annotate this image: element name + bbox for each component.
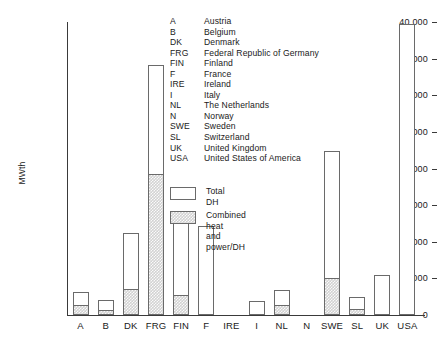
legend-label: Total DH [206, 186, 225, 207]
bar-combined-heat-power-dh [173, 295, 189, 315]
abbreviation-key-row: BBelgium [170, 27, 319, 38]
abbreviation-key-row: DKDenmark [170, 37, 319, 48]
abbreviation-code: DK [170, 37, 204, 48]
abbreviation-code: N [170, 111, 204, 122]
abbreviation-country-name: Belgium [204, 27, 236, 38]
bar-combined-heat-power-dh [349, 309, 365, 315]
abbreviation-country-name: Austria [204, 16, 231, 27]
abbreviation-country-name: Switzerland [204, 132, 250, 143]
bar-group [374, 22, 390, 315]
abbreviation-country-name: United States of America [204, 153, 301, 164]
bar-total-dh [399, 24, 415, 315]
abbreviation-code: UK [170, 143, 204, 154]
legend-label: Combined heat and power/DH [206, 210, 246, 252]
y-axis-tick-mark [432, 95, 437, 96]
abbreviation-country-name: Federal Republic of Germany [204, 48, 319, 59]
abbreviation-code: B [170, 27, 204, 38]
abbreviation-country-name: Sweden [204, 121, 236, 132]
bar-group [324, 22, 340, 315]
y-axis-tick-mark [432, 242, 437, 243]
bar-total-dh [374, 275, 390, 315]
y-axis-tick-mark [432, 278, 437, 279]
abbreviation-country-name: Norway [204, 111, 234, 122]
abbreviation-code: FRG [170, 48, 204, 59]
abbreviation-country-name: Ireland [204, 79, 231, 90]
bar-group [349, 22, 365, 315]
abbreviation-country-name: United Kingdom [204, 143, 267, 154]
y-axis-tick-mark [432, 169, 437, 170]
abbreviation-key-row: SLSwitzerland [170, 132, 319, 143]
abbreviation-code: F [170, 69, 204, 80]
bar-combined-heat-power-dh [148, 174, 164, 315]
y-axis-tick-mark [432, 132, 437, 133]
y-axis-title: MWth [17, 143, 27, 203]
abbreviation-code: A [170, 16, 204, 27]
abbreviation-key-row: AAustria [170, 16, 319, 27]
bar-combined-heat-power-dh [73, 305, 89, 315]
abbreviation-key-row: SWESweden [170, 121, 319, 132]
bar-group [73, 22, 89, 315]
bar-group [399, 22, 415, 315]
x-axis-line [67, 315, 425, 316]
abbreviation-country-name: Denmark [204, 37, 240, 48]
bar-group [148, 22, 164, 315]
abbreviation-key-row: FINFinland [170, 58, 319, 69]
abbreviation-code: SWE [170, 121, 204, 132]
abbreviation-key-row: FFrance [170, 69, 319, 80]
bar-group [98, 22, 114, 315]
abbreviation-key-row: FRGFederal Republic of Germany [170, 48, 319, 59]
legend-swatch-chp [170, 211, 196, 224]
abbreviation-code: FIN [170, 58, 204, 69]
abbreviation-key-row: UKUnited Kingdom [170, 143, 319, 154]
bar-combined-heat-power-dh [274, 305, 290, 315]
abbreviation-key-row: NNorway [170, 111, 319, 122]
abbreviation-code: SL [170, 132, 204, 143]
abbreviation-key-row: IItaly [170, 90, 319, 101]
legend-swatch-total [170, 187, 196, 200]
abbreviation-key-row: USAUnited States of America [170, 153, 319, 164]
abbreviation-code: IRE [170, 79, 204, 90]
bar-total-dh [249, 301, 265, 315]
bar-group [123, 22, 139, 315]
abbreviation-code: USA [170, 153, 204, 164]
abbreviation-key-row: NLThe Netherlands [170, 100, 319, 111]
bar-combined-heat-power-dh [123, 289, 139, 315]
abbreviation-country-name: The Netherlands [204, 100, 269, 111]
y-axis-tick-mark [432, 22, 437, 23]
x-axis-tick-label: USA [382, 320, 432, 331]
bar-combined-heat-power-dh [324, 278, 340, 315]
abbreviation-code: NL [170, 100, 204, 111]
y-axis-tick-mark [432, 205, 437, 206]
bar-combined-heat-power-dh [98, 310, 114, 315]
abbreviation-code: I [170, 90, 204, 101]
abbreviation-country-name: France [204, 69, 231, 80]
y-axis-tick-mark [432, 59, 437, 60]
abbreviation-country-name: Italy [204, 90, 220, 101]
abbreviation-country-name: Finland [204, 58, 233, 69]
abbreviation-key-row: IREIreland [170, 79, 319, 90]
country-abbreviation-key: AAustriaBBelgiumDKDenmarkFRGFederal Repu… [170, 16, 319, 164]
